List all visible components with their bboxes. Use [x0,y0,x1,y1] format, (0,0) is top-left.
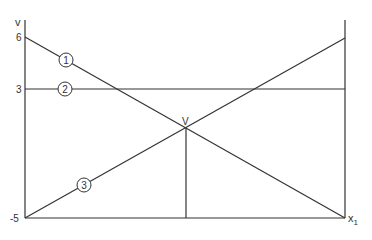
line-2-marker: 2 [58,82,72,96]
line-3-marker: 3 [77,178,91,192]
line-1-marker: 1 [59,53,73,67]
tick-3: 3 [16,84,22,95]
x-axis-label: x1 [348,212,359,227]
svg-text:1: 1 [63,55,69,66]
y-axis-label: v [15,16,21,28]
tick-6: 6 [16,32,22,43]
diagram: v 6 3 -5 x1 V 1 2 3 [0,0,372,240]
tick-minus-5: -5 [10,213,19,224]
intersection-label: V [182,116,189,127]
svg-text:2: 2 [62,84,68,95]
svg-text:3: 3 [81,180,87,191]
